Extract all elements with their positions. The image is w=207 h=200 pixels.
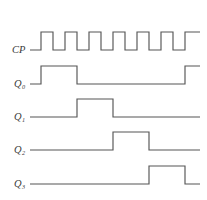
signal-label-cp: CP (12, 44, 26, 55)
signal-label-q0: Q0 (14, 78, 26, 90)
waveform-q3 (30, 166, 200, 184)
signal-label-q1: Q1 (14, 111, 25, 123)
signal-labels-group: CPQ0Q1Q2Q3 (12, 44, 26, 190)
waveform-cp (30, 32, 200, 50)
waveform-q2 (30, 132, 200, 150)
timing-diagram-figure: CPQ0Q1Q2Q3 (0, 0, 207, 200)
signal-label-q2: Q2 (14, 144, 25, 156)
timing-diagram-canvas: CPQ0Q1Q2Q3 (0, 0, 207, 200)
waveform-q1 (30, 99, 200, 117)
waveforms-group (30, 32, 200, 184)
waveform-q0 (30, 66, 200, 84)
signal-label-q3: Q3 (14, 178, 25, 190)
